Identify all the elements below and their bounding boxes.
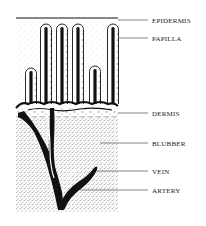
papilla-capillary-core (29, 71, 32, 104)
label-epidermis: EPIDERMIS (152, 17, 191, 25)
papilla-capillary-core (111, 27, 114, 104)
skin-cross-section-diagram: EPIDERMIS PAPILLA DERMIS BLUBBER VEIN AR… (0, 0, 206, 226)
papilla-capillary-core (93, 69, 96, 104)
label-artery: ARTERY (152, 187, 180, 195)
label-papilla: PAPILLA (152, 35, 182, 43)
label-dermis: DERMIS (152, 110, 180, 118)
papilla-capillary-core (60, 27, 63, 104)
papilla-capillary-core (76, 27, 79, 104)
papilla-capillary-core (44, 27, 47, 104)
label-vein: VEIN (152, 168, 170, 176)
label-blubber: BLUBBER (152, 140, 186, 148)
